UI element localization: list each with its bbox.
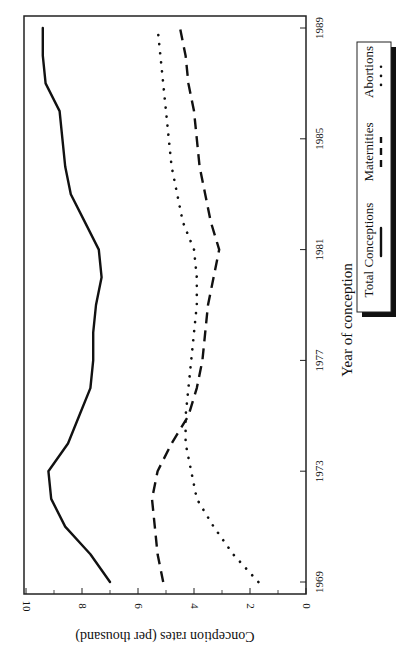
plot-border — [24, 16, 306, 594]
y-tick-label: 0 — [301, 603, 313, 609]
x-tick-label: 1989 — [313, 17, 325, 40]
x-tick-label: 1969 — [313, 571, 325, 594]
legend-label: Abortions — [361, 46, 376, 98]
y-tick-label: 10 — [21, 601, 33, 613]
x-tick-label: 1973 — [313, 460, 325, 483]
line-chart: 0246810196919731977198119851989 Concepti… — [0, 0, 410, 660]
series-total-conceptions — [43, 28, 110, 582]
plot-area — [24, 16, 306, 594]
y-axis-label: Conception rates (per thousand) — [75, 628, 255, 644]
x-tick-label: 1981 — [313, 239, 325, 261]
axes: 0246810196919731977198119851989 — [21, 17, 324, 613]
y-tick-label: 8 — [77, 603, 89, 609]
legend-label: Maternities — [361, 122, 376, 181]
y-tick-label: 4 — [189, 603, 201, 609]
series-layer — [43, 28, 259, 582]
chart-figure: 0246810196919731977198119851989 Concepti… — [0, 0, 410, 660]
y-tick-label: 6 — [133, 603, 145, 609]
legend: Total ConceptionsMaternitiesAbortions — [357, 42, 396, 317]
series-maternities — [152, 28, 219, 582]
x-tick-label: 1985 — [313, 127, 325, 150]
legend-label: Total Conceptions — [361, 203, 376, 298]
x-axis-label: Year of conception — [339, 263, 355, 377]
x-tick-label: 1977 — [313, 349, 325, 372]
y-tick-label: 2 — [245, 603, 257, 609]
